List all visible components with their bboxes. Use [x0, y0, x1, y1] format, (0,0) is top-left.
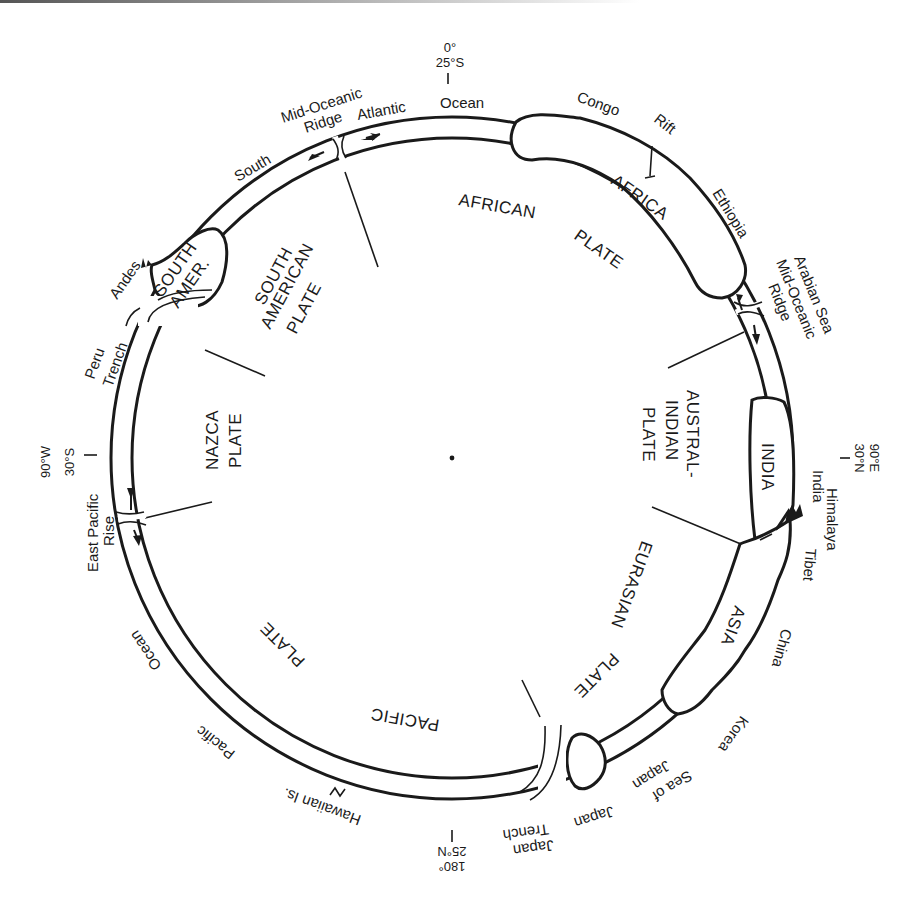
svg-text:PACIFIC: PACIFIC: [369, 704, 441, 735]
svg-text:0°: 0°: [444, 40, 456, 55]
label-pacific-plate: PACIFIC PLATE: [256, 618, 440, 735]
label-austral-indian-plate: AUSTRAL- INDIAN PLATE: [639, 390, 702, 478]
label-tibet: Tibet: [800, 548, 820, 583]
ridge-east-pacific: [116, 512, 146, 525]
ridge-atlantic: [332, 136, 346, 163]
label-india: INDIA: [758, 443, 777, 491]
svg-text:PLATE: PLATE: [570, 649, 622, 701]
label-sea-of-japan: Sea of Japan: [630, 757, 696, 805]
label-hawaiian-islands: Hawaiian Is.: [280, 785, 363, 829]
coordinate-right: 90°E 30°N: [840, 443, 882, 472]
svg-text:EURASIAN: EURASIAN: [607, 539, 656, 631]
svg-text:Trench: Trench: [99, 340, 131, 389]
label-south: South: [231, 150, 273, 184]
svg-text:AUSTRAL-: AUSTRAL-: [683, 390, 702, 478]
label-arabian-sea-ridge: Arabian Sea Mid-Oceanic Ridge: [765, 253, 838, 342]
label-congo: Congo: [575, 88, 622, 119]
svg-text:East Pacific: East Pacific: [84, 493, 101, 572]
label-andes: Andes: [106, 257, 144, 302]
coordinate-bottom: 180° 25°N: [437, 830, 466, 874]
label-japan: Japan: [572, 803, 616, 832]
label-ocean-top: Ocean: [440, 94, 484, 111]
africa-continent: [511, 115, 745, 298]
label-east-pacific-rise: East Pacific Rise: [84, 493, 117, 572]
svg-text:INDIAN: INDIAN: [662, 400, 681, 461]
svg-text:AFRICAN: AFRICAN: [457, 190, 537, 222]
label-mid-oceanic-ridge-atlantic: Mid-Oceanic Ridge: [279, 84, 365, 136]
coordinate-top: 0° 25°S: [436, 40, 465, 84]
japan-trench: [520, 722, 566, 800]
asia-continent: [662, 520, 790, 714]
label-himalaya: Himalaya: [824, 488, 841, 551]
label-china: China: [769, 627, 796, 670]
label-south-american-plate: SOUTH AMERICAN PLATE: [251, 240, 326, 337]
label-nazca-plate: NAZCA PLATE: [203, 410, 245, 470]
svg-text:PLATE: PLATE: [639, 407, 658, 462]
label-eurasian-plate: EURASIAN PLATE: [570, 539, 656, 702]
svg-text:25°S: 25°S: [436, 55, 465, 70]
svg-text:30°N: 30°N: [852, 443, 867, 472]
earth-center-dot: [450, 456, 455, 461]
svg-text:90°W: 90°W: [38, 445, 53, 478]
svg-text:25°N: 25°N: [437, 844, 466, 859]
svg-text:NAZCA: NAZCA: [203, 410, 222, 470]
svg-text:PLATE: PLATE: [256, 618, 308, 670]
label-atlantic: Atlantic: [356, 98, 408, 123]
plate-tectonics-diagram: 0° 25°S 90°E 30°N 180° 25°N 90°W 30°S AF…: [0, 0, 901, 914]
coordinate-left: 90°W: [38, 445, 53, 478]
label-rift: Rift: [651, 110, 680, 138]
label-korea: Korea: [715, 713, 752, 756]
svg-text:90°E: 90°E: [867, 444, 882, 473]
svg-text:30°S: 30°S: [62, 448, 77, 477]
label-japan-trench: Japan Trench: [502, 821, 555, 860]
svg-text:PLATE: PLATE: [226, 413, 245, 468]
hawaiian-islands-icon: [330, 788, 345, 796]
coordinate-left-lat: 30°S: [62, 448, 77, 477]
label-peru-trench: Peru Trench: [81, 340, 131, 389]
label-pacific: Pacific: [192, 722, 238, 763]
label-african-plate: AFRICAN PLATE: [457, 190, 626, 273]
japan-island: [567, 734, 605, 789]
svg-text:Rise: Rise: [100, 516, 117, 546]
svg-text:180°: 180°: [439, 859, 466, 874]
svg-text:PLATE: PLATE: [571, 226, 627, 273]
